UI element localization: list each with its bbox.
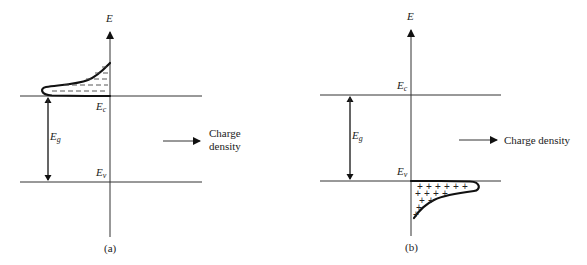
hole-plus-signs: + + + + + + + + + + + + + + bbox=[413, 181, 468, 220]
band-diagram-figure: E Ec Ev Eg Charge density (a) E bbox=[0, 0, 587, 265]
energy-axis-label-a: E bbox=[105, 12, 113, 24]
svg-text:+: + bbox=[462, 181, 468, 192]
ec-label-b: Ec bbox=[396, 79, 408, 93]
ev-label-a: Ev bbox=[95, 166, 107, 180]
svg-text:+: + bbox=[453, 181, 459, 192]
caption-a: (a) bbox=[104, 242, 117, 255]
svg-text:+: + bbox=[428, 195, 434, 206]
panel-b: E Ec Ev Eg + + + + + + + + + + + + + + bbox=[320, 10, 571, 254]
svg-text:+: + bbox=[442, 188, 448, 199]
charge-density-label-b: Charge density bbox=[504, 134, 571, 146]
charge-density-label-a-line1: Charge bbox=[209, 127, 241, 139]
svg-text:+: + bbox=[413, 209, 419, 220]
eg-label-a: Eg bbox=[49, 130, 61, 144]
eg-label-b: Eg bbox=[351, 129, 363, 143]
caption-b: (b) bbox=[405, 241, 418, 254]
panel-a: E Ec Ev Eg Charge density (a) bbox=[20, 12, 241, 255]
charge-density-label-a-line2: density bbox=[209, 140, 241, 152]
energy-axis-label-b: E bbox=[406, 10, 414, 22]
ec-label-a: Ec bbox=[95, 100, 107, 114]
ev-label-b: Ev bbox=[396, 165, 408, 179]
svg-text:+: + bbox=[433, 188, 439, 199]
electron-dashes bbox=[52, 67, 108, 91]
